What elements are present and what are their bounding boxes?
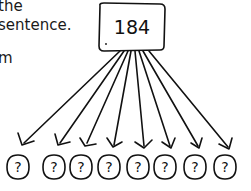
branch-8 [149, 51, 228, 147]
leaf-label-3: ? [77, 159, 84, 175]
leaf-label-6: ? [161, 159, 168, 175]
leaf-label-5: ? [134, 159, 141, 175]
branch-5 [135, 51, 144, 146]
leaf-label-1: ? [14, 159, 21, 175]
leaf-label-7: ? [191, 159, 198, 175]
root-value: 184 [114, 16, 150, 38]
branch-6 [139, 51, 170, 146]
branch-1 [24, 51, 120, 143]
tree-diagram: 184 ? ? ? ? ? ? ? ? [0, 0, 251, 191]
leaf-label-4: ? [105, 159, 112, 175]
leaf-label-8: ? [221, 159, 228, 175]
box-dot [105, 43, 107, 45]
branch-7 [143, 51, 198, 146]
branch-3 [87, 51, 128, 143]
leaf-label-2: ? [50, 159, 57, 175]
branch-2 [60, 51, 124, 143]
